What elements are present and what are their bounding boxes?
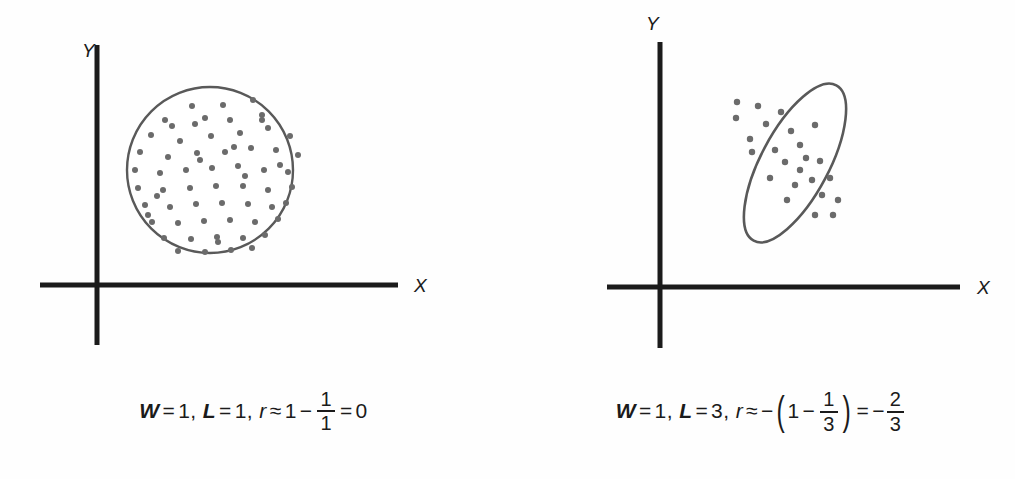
caption-right: W=1, L=3, r≈−(1−13)=−23: [507, 390, 1015, 435]
caption-left-sep1: ,: [190, 399, 196, 422]
caption-left-w-eq: =: [160, 399, 179, 422]
plot-right: Y X: [507, 0, 1015, 390]
caption-right-w-eq: =: [636, 399, 655, 422]
caption-right-result-numerator: 2: [887, 389, 905, 412]
caption-right-sep2: ,: [723, 399, 729, 422]
caption-right-fraction-denominator: 3: [820, 413, 838, 434]
caption-right-neg: −: [761, 399, 774, 422]
caption-right-r: r: [736, 399, 743, 422]
caption-right-minus: −: [800, 399, 819, 422]
caption-right-result-minus: −: [872, 399, 885, 422]
caption-right-l-value: 3: [711, 399, 723, 422]
panel-left: Y X W=1, L=1, r≈1−11=0: [0, 0, 507, 479]
caption-right-l: L: [679, 399, 692, 422]
caption-right-result-denominator: 3: [887, 413, 905, 434]
caption-right-fraction: 13: [820, 389, 838, 434]
panel-right: Y X W=1, L=3, r≈−(1−13)=−23: [507, 0, 1015, 479]
caption-right-sep1: ,: [667, 399, 673, 422]
figure-root: Y X W=1, L=1, r≈1−11=0: [0, 0, 1015, 479]
caption-right-w: W: [616, 399, 636, 422]
y-axis-label-right: Y: [646, 13, 660, 34]
caption-left-fraction-numerator: 1: [317, 389, 335, 412]
caption-right-w-value: 1: [655, 399, 667, 422]
caption-right-one: 1: [787, 399, 799, 422]
caption-left-sep2: ,: [247, 399, 253, 422]
caption-right-approx: ≈: [743, 399, 761, 422]
caption-right-eq: =: [853, 399, 872, 422]
caption-left-approx: ≈: [267, 399, 285, 422]
y-axis-label-left: Y: [82, 40, 96, 61]
caption-right-rparen: ): [842, 389, 851, 434]
caption-left-minus: −: [297, 399, 316, 422]
caption-left-r: r: [259, 399, 266, 422]
caption-left-l: L: [203, 399, 216, 422]
caption-left: W=1, L=1, r≈1−11=0: [0, 390, 507, 435]
caption-left-w: W: [139, 399, 159, 422]
caption-right-l-eq: =: [692, 399, 711, 422]
caption-left-fraction: 11: [317, 389, 335, 434]
caption-left-result: 0: [356, 399, 368, 422]
caption-right-result-fraction: 23: [887, 389, 905, 434]
scatter-envelope-ellipse: [724, 69, 867, 256]
caption-right-fraction-numerator: 1: [820, 389, 838, 412]
caption-left-l-value: 1: [235, 399, 247, 422]
caption-left-eq: =: [337, 399, 356, 422]
x-axis-label-right: X: [976, 277, 991, 298]
caption-left-l-eq: =: [216, 399, 235, 422]
plot-left: Y X: [0, 0, 507, 390]
x-axis-label-left: X: [413, 275, 428, 296]
caption-left-one: 1: [285, 399, 297, 422]
caption-right-lparen: (: [776, 389, 785, 434]
caption-left-w-value: 1: [178, 399, 190, 422]
caption-left-fraction-denominator: 1: [317, 412, 335, 433]
